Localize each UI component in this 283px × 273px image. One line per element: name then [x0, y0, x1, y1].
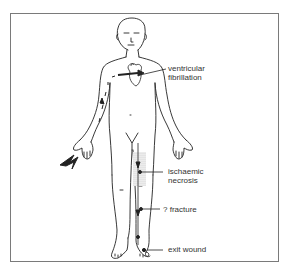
lightning-bolt-icon — [60, 155, 78, 169]
label-fracture: ? fracture — [163, 205, 197, 214]
ischaemic-region — [133, 152, 146, 186]
label-ventricular: ventricular — [168, 64, 205, 73]
label-necrosis: necrosis — [168, 176, 198, 185]
label-exit-wound: exit wound — [168, 245, 206, 254]
human-figure — [0, 0, 283, 273]
torso-outline — [80, 57, 126, 140]
label-fibrillation: fibrillation — [168, 73, 202, 82]
label-ischaemic: ischaemic — [168, 167, 204, 176]
